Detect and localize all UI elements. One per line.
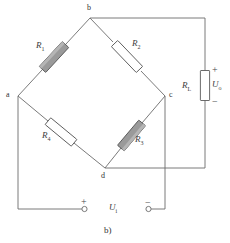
wire-c-to-R3 <box>142 96 165 123</box>
input-plus-terminal[interactable] <box>82 206 87 211</box>
wire-R1-to-b <box>66 18 90 44</box>
resistor-label-RL-sub: L <box>188 86 192 92</box>
resistor-label-R1-sub: 1 <box>42 46 45 52</box>
resistor-label-R4-sub: 4 <box>48 136 51 142</box>
wire-a-to-R1 <box>18 70 42 96</box>
output-voltage-sub: o <box>219 85 222 91</box>
node-label-c: c <box>169 91 173 99</box>
input-voltage-label: Ui <box>109 203 117 214</box>
resistor-RL-body <box>200 71 209 101</box>
resistor-label-R1: R1 <box>36 41 45 52</box>
resistor-label-RL: RL <box>182 81 191 92</box>
input-voltage-sub: i <box>116 208 118 214</box>
circuit-figure: a b c d R1 R2 R3 R4 RL + Uo − + Ui − b) <box>0 0 230 243</box>
wire-R2-to-c <box>141 71 165 96</box>
node-label-b: b <box>87 4 91 12</box>
input-plus-sign: + <box>81 197 87 207</box>
resistor-label-R2-sub: 2 <box>138 44 141 50</box>
resistor-label-R4: R4 <box>42 131 51 142</box>
wire-R4-to-d <box>74 143 105 168</box>
output-voltage-label: Uo <box>212 80 222 91</box>
output-minus-sign: − <box>212 97 218 107</box>
resistor-label-R3: R3 <box>135 135 144 146</box>
output-plus-sign: + <box>212 65 218 75</box>
wire-R3-to-d <box>105 148 121 168</box>
resistor-label-R2: R2 <box>132 39 141 50</box>
wire-b-to-R2 <box>90 18 113 42</box>
figure-caption: b) <box>104 226 112 235</box>
node-label-a: a <box>6 91 10 99</box>
node-label-d: d <box>101 172 105 180</box>
wire-a-to-R4 <box>18 96 48 121</box>
input-minus-sign: − <box>145 198 151 208</box>
resistor-label-R3-sub: 3 <box>141 140 144 146</box>
